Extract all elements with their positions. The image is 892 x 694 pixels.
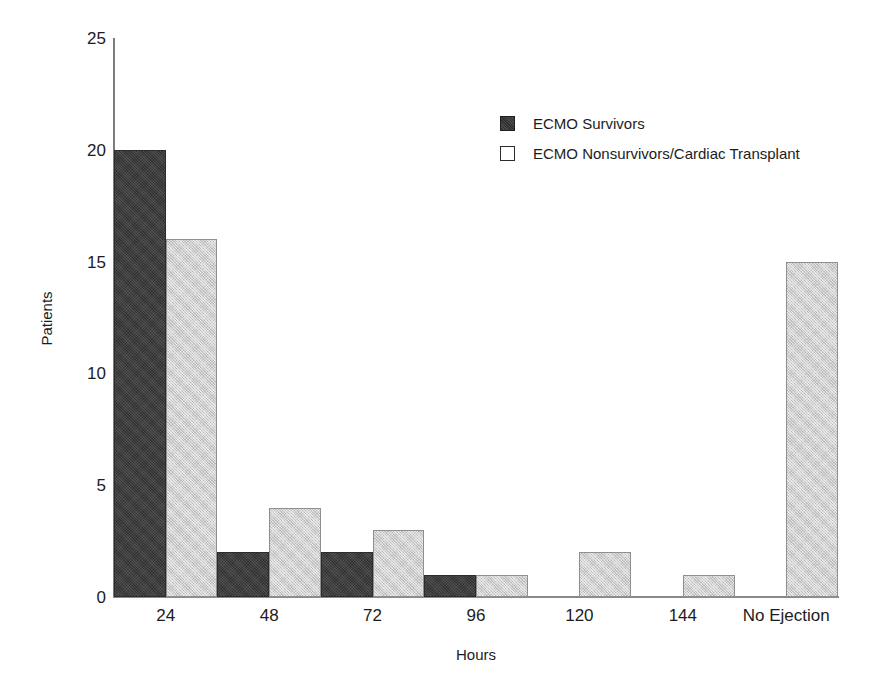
x-axis-title: Hours — [114, 646, 838, 663]
bar-group — [217, 38, 320, 597]
bar-group — [321, 38, 424, 597]
bar-nonsurvivors — [269, 508, 321, 597]
bar-nonsurvivors — [786, 262, 838, 597]
bar-nonsurvivors — [579, 552, 631, 597]
legend-swatch-icon — [500, 116, 515, 131]
bar-chart-figure: 0510152025 24487296120144No Ejection Hou… — [0, 0, 892, 694]
y-tick-label: 25 — [62, 30, 106, 47]
x-tick-label: 48 — [217, 606, 320, 632]
y-tick-label: 5 — [62, 477, 106, 494]
bar-survivors — [217, 552, 269, 597]
bar-survivors — [114, 150, 166, 597]
y-tick-label: 15 — [62, 254, 106, 271]
chart-legend: ECMO SurvivorsECMO Nonsurvivors/Cardiac … — [500, 108, 860, 168]
x-axis-tick-labels: 24487296120144No Ejection — [114, 606, 838, 632]
bar-nonsurvivors — [476, 575, 528, 597]
y-tick-label: 10 — [62, 365, 106, 382]
y-axis-title: Patients — [38, 259, 55, 379]
x-tick-label: 96 — [424, 606, 527, 632]
x-tick-label: 144 — [631, 606, 734, 632]
legend-label: ECMO Survivors — [533, 116, 645, 131]
x-tick-label: 24 — [114, 606, 217, 632]
legend-swatch-icon — [500, 146, 515, 161]
x-tick-label: No Ejection — [735, 606, 838, 632]
x-tick-label: 72 — [321, 606, 424, 632]
bar-nonsurvivors — [166, 239, 218, 597]
legend-label: ECMO Nonsurvivors/Cardiac Transplant — [533, 146, 800, 161]
bar-group — [114, 38, 217, 597]
bar-nonsurvivors — [373, 530, 425, 597]
y-tick-label: 20 — [62, 142, 106, 159]
legend-item: ECMO Survivors — [500, 108, 860, 138]
y-axis-tick-labels: 0510152025 — [50, 38, 106, 597]
bar-survivors — [321, 552, 373, 597]
legend-item: ECMO Nonsurvivors/Cardiac Transplant — [500, 138, 860, 168]
y-tick-label: 0 — [62, 589, 106, 606]
x-tick-label: 120 — [528, 606, 631, 632]
bar-nonsurvivors — [683, 575, 735, 597]
bar-survivors — [424, 575, 476, 597]
